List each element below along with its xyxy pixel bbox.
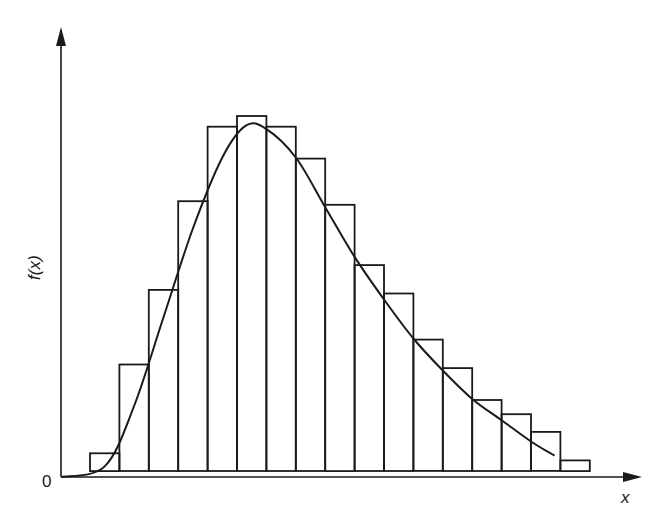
histogram-bar: [560, 460, 589, 471]
histogram-bar: [325, 205, 354, 471]
histogram-chart: 0 x f(x): [0, 0, 666, 526]
x-axis-label: x: [620, 488, 630, 507]
histogram-bar: [119, 365, 148, 472]
histogram-bar: [443, 368, 472, 471]
histogram-bar: [355, 265, 384, 471]
x-axis: [61, 472, 642, 482]
origin-label: 0: [42, 472, 51, 491]
y-axis: [56, 27, 66, 477]
histogram-bar: [178, 201, 207, 471]
histogram-bar: [237, 116, 266, 471]
histogram-bar: [266, 127, 295, 471]
y-axis-arrow-icon: [56, 27, 66, 46]
histogram-bar: [413, 340, 442, 471]
density-curve: [61, 123, 555, 477]
x-axis-arrow-icon: [623, 472, 642, 482]
histogram-bars: [90, 116, 590, 471]
y-axis-label: f(x): [25, 255, 44, 280]
histogram-bar: [296, 159, 325, 471]
histogram-bar: [90, 453, 119, 471]
